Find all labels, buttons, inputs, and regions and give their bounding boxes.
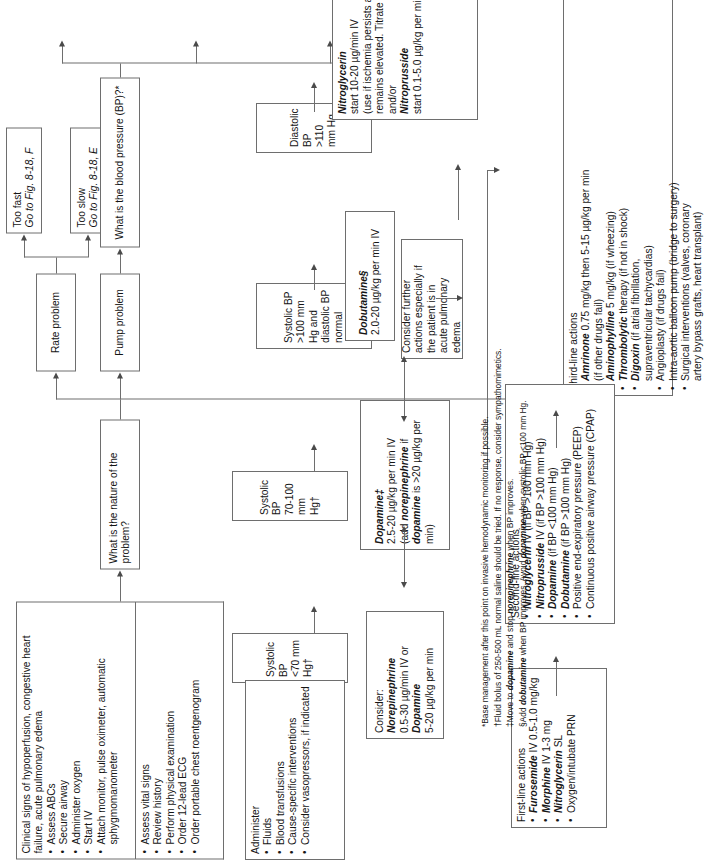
footnote-2: †Fluid bolus of 250-500 mL normal saline… — [492, 367, 505, 727]
arrowhead — [553, 410, 559, 416]
nitro-dose1: start 10-20 µg/min IV — [349, 0, 361, 114]
consider-dose2: 5-20 µg/kg per min — [424, 617, 436, 733]
bp-gt100-line2: >100 mm Hg and — [295, 289, 320, 343]
arrowhead — [553, 656, 559, 662]
consider-drug1: Norepinephrine — [386, 617, 398, 733]
dobutamine-dose: 2.0-20 µg/kg per min IV — [370, 217, 382, 335]
nitro-note2: remains elevated. Titrate to effect) — [374, 0, 386, 114]
node-dobutamine: Dobutamine§ 2.0-20 µg/kg per min IV — [345, 211, 395, 341]
cf-line1: Consider further — [401, 245, 413, 353]
arrowhead — [494, 167, 500, 173]
connector — [458, 168, 459, 220]
bp-70-100-line1: Systolic BP — [259, 477, 284, 515]
arrowhead — [401, 526, 407, 532]
arrowhead — [401, 416, 407, 422]
nitro-drug2: Nitroprusside — [399, 0, 411, 114]
arrowhead — [311, 264, 317, 270]
connector — [436, 298, 458, 299]
administer-list: Fluids Blood transfusions Cause-specific… — [262, 686, 312, 854]
arrowhead — [401, 582, 407, 588]
flowchart-overlay: Diastolic BP >110 mm Hg Systolic BP >100… — [0, 0, 718, 867]
list-item: Cause-specific interventions — [287, 686, 299, 854]
node-third-line-actions: Third-line actions Amrinone 0.75 mg/kg t… — [563, 0, 673, 396]
connector — [314, 610, 315, 634]
arrowhead — [311, 82, 317, 88]
cf-line2: actions especially if — [413, 245, 425, 353]
dobutamine-drug: Dobutamine§ — [358, 217, 370, 335]
list-item: Fluids — [262, 686, 274, 854]
dopamine-dose: 2.5-20 µg/kg per min IV — [386, 406, 398, 544]
arrowhead — [457, 295, 463, 301]
node-nitroglycerin-nitroprusside: Nitroglycerin start 10-20 µg/min IV (use… — [332, 0, 478, 120]
connector — [404, 530, 405, 584]
connector — [314, 448, 315, 472]
list-item: Aminophylline 5 mg/kg (if wheezing) — [605, 0, 617, 390]
arrowhead — [401, 356, 407, 362]
footnotes: *Base management after this point on inv… — [479, 367, 537, 727]
list-item: Intra-aortic balloon pump (bridge to sur… — [668, 0, 680, 390]
node-bp-lt70: Systolic BP <70 mm Hg† — [232, 633, 348, 683]
list-item: Blood transfusions — [275, 686, 287, 854]
connector — [556, 414, 557, 448]
nitro-andor: and/or — [387, 0, 399, 114]
cf-line3: the patient is in — [426, 245, 438, 353]
list-item: Positive end-expiratory pressure (PEEP) — [572, 390, 584, 618]
node-bp-70-100: Systolic BP 70-100 mm Hg† — [232, 471, 348, 521]
footnote-3: ‡Move to dopamine and stop norepinephrin… — [504, 367, 517, 727]
list-item: Nitroglycerin SL — [553, 674, 565, 822]
nitro-dose2: start 0.1-5.0 µg/kg per min IV — [412, 0, 424, 114]
connector — [556, 660, 557, 696]
nitro-note1: (use if ischemia persists and BP — [362, 0, 374, 114]
arrowhead — [311, 444, 317, 450]
arrowhead — [455, 164, 461, 170]
list-item: Angioplasty (if drugs fail) — [655, 0, 667, 390]
consider-heading: Consider: — [374, 617, 386, 733]
arrowhead — [311, 606, 317, 612]
bp-lt70-line2: <70 mm Hg† — [290, 639, 315, 677]
bp-gt100-line1: Systolic BP — [283, 291, 295, 343]
list-item: Morphine IV 1-3 mg — [541, 674, 553, 822]
diastolic-line1: Diastolic BP — [289, 109, 314, 148]
dopamine-drug: Dopamine‡ — [374, 406, 386, 544]
list-item: Amrinone 0.75 mg/kg then 5-15 µg/kg per … — [580, 0, 605, 390]
administer-heading: Administer — [250, 686, 262, 854]
list-item: Consider vasopressors, if indicated — [300, 686, 312, 854]
bp-lt70-line1: Systolic BP — [265, 639, 290, 677]
consider-dose1: 0.5-30 µg/min IV or — [399, 617, 411, 733]
consider-drug2: Dopamine — [411, 617, 423, 733]
third-line-list: Amrinone 0.75 mg/kg then 5-15 µg/kg per … — [580, 0, 704, 390]
node-consider-vasopressors: Consider: Norepinephrine 0.5-30 µg/min I… — [366, 611, 444, 739]
node-consider-further-actions: Consider further actions especially if t… — [401, 239, 463, 359]
list-item: Digoxin (if atrial fibrillation,supraven… — [630, 0, 655, 390]
list-item: Dopamine (if BP <100 mm Hg) — [547, 390, 559, 618]
connector — [404, 360, 405, 418]
footnote-4: §Add dobutamine when BP improves. Avoid … — [517, 367, 530, 727]
nitro-drug1: Nitroglycerin — [337, 0, 349, 114]
list-item: Oxygen/intubate PRN — [566, 674, 578, 822]
connector — [314, 86, 315, 112]
list-item: Thrombolytic therapy (if not in shock) — [618, 0, 630, 390]
list-item: Surgical interventions (valves, coronary… — [680, 0, 705, 390]
list-item: Continuous positive airway pressure (CPA… — [585, 390, 597, 618]
bp-gt100-line3: diastolic BP normal — [320, 289, 345, 343]
third-line-heading: Third-line actions — [568, 0, 580, 390]
connector — [314, 268, 315, 290]
node-administer: Administer Fluids Blood transfusions Cau… — [245, 680, 345, 860]
bp-70-100-line2: 70-100 mm Hg† — [284, 477, 321, 515]
dopamine-note: (add norepinephrine if dopamine is >20 µ… — [399, 406, 436, 544]
footnote-1: *Base management after this point on inv… — [479, 367, 492, 727]
list-item: Dobutamine (if BP >100 mm Hg) — [560, 390, 572, 618]
figure-root: Clinical signs of hypoperfusion, congest… — [0, 0, 718, 867]
